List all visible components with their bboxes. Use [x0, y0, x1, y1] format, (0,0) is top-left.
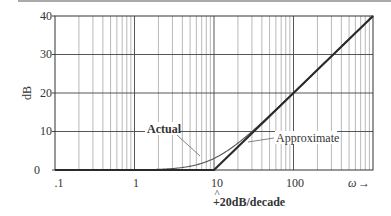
y-tick-30: 30	[40, 47, 52, 61]
y-tick-40: 40	[40, 9, 52, 23]
slope-annotation: +20dB/decade	[213, 195, 286, 209]
x-tick-0.1: .1	[55, 176, 64, 190]
approximate-label: Approximate	[276, 131, 339, 145]
x-axis-arrow: →	[358, 176, 370, 190]
y-tick-10: 10	[40, 124, 52, 138]
grid	[52, 16, 373, 170]
y-tick-labels: 0 10 20 30 40	[34, 9, 52, 177]
y-tick-20: 20	[40, 86, 52, 100]
bode-magnitude-chart: 0 10 20 30 40 dB .1 1 10 100 ω → Actual …	[0, 0, 391, 216]
x-tick-100: 100	[286, 176, 304, 190]
actual-label: Actual	[147, 122, 182, 136]
x-tick-1: 1	[133, 176, 139, 190]
x-tick-labels: .1 1 10 100	[55, 176, 305, 190]
x-axis-label: ω	[348, 176, 356, 190]
y-axis-label: dB	[20, 86, 34, 100]
y-tick-0: 0	[34, 163, 40, 177]
